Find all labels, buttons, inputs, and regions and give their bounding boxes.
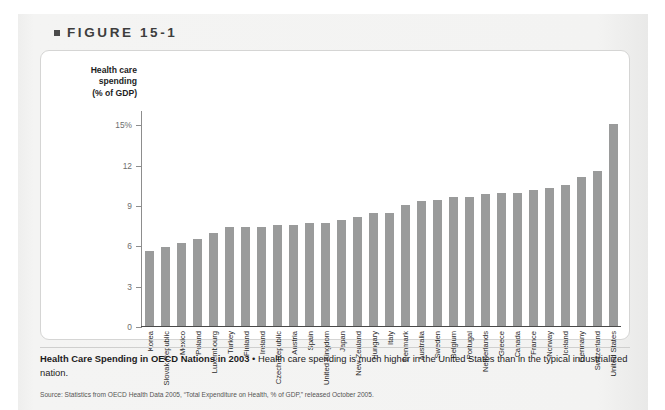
bar (385, 213, 394, 326)
x-tick-label: Italy (385, 331, 394, 345)
plot-area: 03691215% KoreaSlovak RepublicMexicoPola… (141, 111, 621, 327)
bar (289, 225, 298, 326)
bar (369, 213, 378, 326)
y-axis-title-line-2: spending (59, 76, 137, 87)
bar (433, 200, 442, 326)
x-tick-label: Japan (337, 331, 346, 352)
bar-slot: Spain (302, 111, 318, 326)
square-bullet-icon (54, 30, 60, 36)
caption-bullet: • (252, 353, 255, 364)
bar-series: KoreaSlovak RepublicMexicoPolandLuxembou… (142, 111, 621, 326)
bar-slot: Japan (334, 111, 350, 326)
bar-slot: Belgium (445, 111, 461, 326)
y-tick-label: 6 (127, 241, 132, 251)
bar (609, 124, 618, 326)
bar (321, 223, 330, 326)
bar-slot: Netherlands (477, 111, 493, 326)
x-tick-label: Korea (145, 331, 154, 351)
bar (257, 227, 266, 326)
bar (193, 239, 202, 326)
bar (481, 194, 490, 326)
bar (545, 188, 554, 326)
bar-slot: Italy (382, 111, 398, 326)
x-tick-label: Ireland (257, 331, 266, 354)
bar-slot: Sweden (429, 111, 445, 326)
figure-number-label: FIGURE 15-1 (67, 25, 177, 40)
bar (241, 227, 250, 326)
bar (353, 217, 362, 326)
y-tick-label: 15% (115, 120, 132, 130)
bar (337, 220, 346, 326)
bar (593, 171, 602, 326)
y-tick-label: 12 (123, 161, 132, 171)
bar (449, 197, 458, 326)
bar-slot: Ireland (254, 111, 270, 326)
x-axis-line (141, 326, 621, 327)
x-tick-label: Turkey (225, 331, 234, 354)
caption-divider (40, 347, 630, 348)
y-tick-label: 0 (127, 322, 132, 332)
bar-slot: Turkey (222, 111, 238, 326)
figure-heading: FIGURE 15-1 (54, 25, 177, 40)
bar (209, 233, 218, 326)
bar (401, 205, 410, 326)
figure-caption: Health Care Spending in OECD Nations in … (40, 352, 630, 379)
bar (497, 193, 506, 326)
bar (529, 190, 538, 326)
caption-headline: Health Care Spending in OECD Nations in … (40, 353, 249, 364)
bar-slot: Poland (190, 111, 206, 326)
figure-source: Source: Statistics from OECD Health Data… (40, 390, 630, 399)
bar (561, 185, 570, 326)
y-tick-label: 9 (127, 201, 132, 211)
bar (465, 197, 474, 326)
bar-slot: Denmark (398, 111, 414, 326)
bar-slot: Switzerland (589, 111, 605, 326)
bar-slot: United States (605, 111, 621, 326)
bar (305, 223, 314, 326)
bar-slot: Norway (541, 111, 557, 326)
bar (161, 247, 170, 326)
bar-slot: New Zealand (350, 111, 366, 326)
bar-slot: Australia (413, 111, 429, 326)
bar (145, 251, 154, 326)
bar-slot: Czech Republic (270, 111, 286, 326)
y-axis-title-line-3: (% of GDP) (59, 88, 137, 99)
y-tick-mark (136, 327, 142, 328)
y-tick-label: 3 (127, 282, 132, 292)
bar-slot: Portugal (461, 111, 477, 326)
bar-slot: Mexico (174, 111, 190, 326)
bar-slot: Hungary (366, 111, 382, 326)
bar-slot: Finland (238, 111, 254, 326)
bar (177, 243, 186, 326)
bar (513, 193, 522, 326)
bar (273, 225, 282, 326)
bar (417, 201, 426, 326)
bar (225, 227, 234, 326)
bar-slot: Greece (493, 111, 509, 326)
bar-slot: France (525, 111, 541, 326)
bar-slot: United Kingdom (318, 111, 334, 326)
bar-slot: Iceland (557, 111, 573, 326)
bar-slot: Luxembourg (206, 111, 222, 326)
bar-slot: Germany (573, 111, 589, 326)
bar (577, 177, 586, 326)
bar-slot: Austria (286, 111, 302, 326)
y-axis-title-line-1: Health care (59, 65, 137, 76)
bar-slot: Canada (509, 111, 525, 326)
figure-page: FIGURE 15-1 Health care spending (% of G… (0, 0, 665, 410)
bar-slot: Slovak Republic (158, 111, 174, 326)
bar-slot: Korea (142, 111, 158, 326)
chart-card: Health care spending (% of GDP) 03691215… (40, 50, 630, 340)
y-axis-title: Health care spending (% of GDP) (59, 65, 137, 99)
